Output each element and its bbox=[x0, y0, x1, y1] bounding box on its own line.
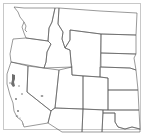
range-area-coast-dot bbox=[9, 82, 10, 83]
range-area-sierra bbox=[21, 93, 23, 95]
range-map bbox=[0, 0, 144, 133]
range-area-southern-california bbox=[17, 110, 19, 112]
range-area-nevada bbox=[41, 95, 44, 96]
range-area-channel-dot bbox=[20, 118, 21, 119]
range-area-central-valley bbox=[18, 85, 19, 86]
range-area-socal-coast bbox=[16, 116, 19, 117]
range-area-central-coast bbox=[15, 98, 17, 100]
map-svg bbox=[0, 0, 144, 133]
range-area-san-diego bbox=[23, 124, 24, 125]
